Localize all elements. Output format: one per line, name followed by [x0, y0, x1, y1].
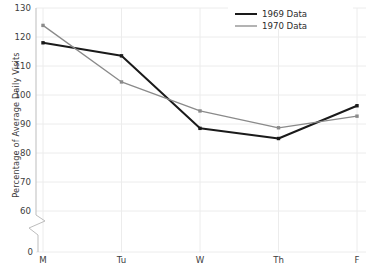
data-point-marker — [41, 41, 44, 44]
x-tick-label: F — [355, 255, 360, 265]
y-tick-label: 80 — [20, 148, 31, 158]
y-tick-label: 100 — [15, 90, 31, 100]
data-point-marker — [355, 104, 358, 107]
x-axis-tick-labels: MTuWThF — [39, 255, 359, 265]
x-tick-label: M — [39, 255, 46, 265]
y-tick-label: 120 — [15, 32, 31, 42]
data-point-marker — [277, 126, 280, 129]
chart-legend: 1969 Data1970 Data — [228, 5, 353, 31]
y-tick-label: 130 — [15, 3, 31, 13]
chart-container: Percentage of Average Daily Visits 60708… — [0, 0, 369, 279]
data-point-marker — [198, 109, 201, 112]
data-point-marker — [120, 80, 123, 83]
y-axis-tick-labels: 607080901001101201300 — [15, 3, 33, 257]
y-tick-label: 70 — [20, 177, 31, 187]
data-point-marker — [41, 24, 44, 27]
y-tick-label-zero: 0 — [28, 247, 33, 257]
data-point-marker — [277, 137, 280, 140]
y-tick-label: 60 — [20, 206, 31, 216]
y-tick-label: 110 — [15, 61, 31, 71]
x-tick-label: Th — [272, 255, 284, 265]
x-tick-label: Tu — [116, 255, 126, 265]
data-point-marker — [120, 54, 123, 57]
legend-label-2[interactable]: 1970 Data — [262, 21, 307, 31]
x-tick-label: W — [196, 255, 205, 265]
data-point-marker — [198, 127, 201, 130]
data-point-marker — [355, 114, 358, 117]
legend-label-1[interactable]: 1969 Data — [262, 9, 307, 19]
y-tick-label: 90 — [20, 119, 31, 129]
line-chart-plot: 607080901001101201300 MTuWThF 1969 Data1… — [0, 0, 369, 279]
